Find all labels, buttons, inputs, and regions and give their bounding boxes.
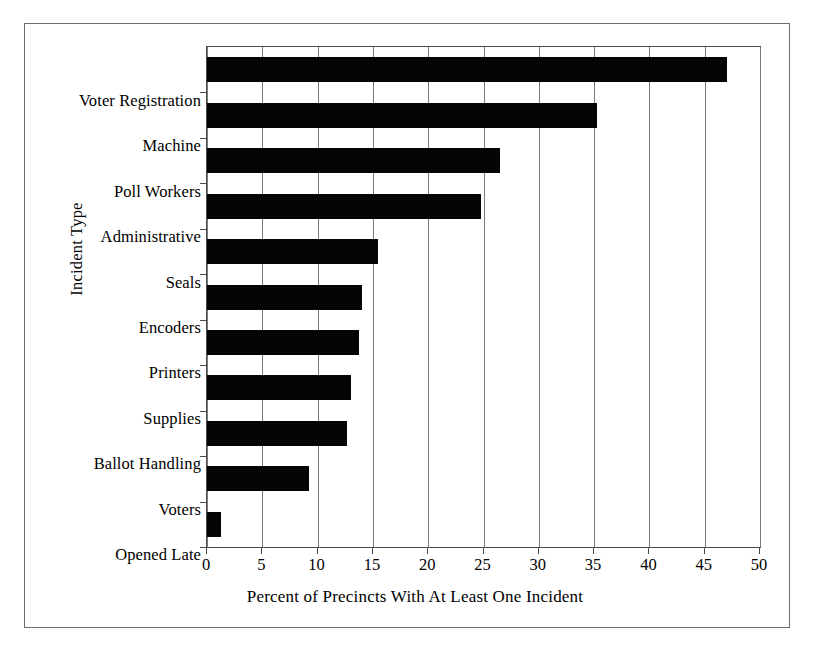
y-axis-category-label: Voters [55,502,201,519]
x-axis-tick-label: 15 [364,557,381,574]
y-axis-category-label: Administrative [55,229,201,246]
x-axis-tick [427,547,428,554]
bar [207,375,351,400]
x-axis-tick-labels: 05101520253035404550 [206,557,759,579]
x-axis-tick [538,547,539,554]
bar [207,285,362,310]
bar [207,330,359,355]
x-axis-tick [704,547,705,554]
gridline-x-50 [760,47,761,547]
y-axis-category-label: Poll Workers [55,184,201,201]
y-axis-category-label: Machine [55,138,201,155]
bar [207,466,309,491]
x-axis-tick [648,547,649,554]
y-axis-category-label: Ballot Handling [55,456,201,473]
bar [207,148,500,173]
x-axis-tick [372,547,373,554]
bar [207,239,378,264]
x-axis-tick-label: 45 [695,557,712,574]
x-axis-tick [483,547,484,554]
x-axis-tick-label: 30 [530,557,547,574]
bar [207,421,347,446]
y-axis-tick [200,456,207,457]
y-axis-tick [200,183,207,184]
bar [207,512,221,537]
y-axis-tick [200,92,207,93]
x-axis-tick [261,547,262,554]
x-axis-tick [593,547,594,554]
x-axis-tick-label: 25 [474,557,491,574]
y-axis-category-label: Voter Registration [55,93,201,110]
x-axis-tick-label: 35 [585,557,602,574]
x-axis-tick-label: 20 [419,557,436,574]
bar [207,103,597,128]
x-axis-tick [317,547,318,554]
y-axis-tick [200,320,207,321]
y-axis-category-label: Seals [55,275,201,292]
y-axis-tick [200,138,207,139]
y-axis-tick [200,229,207,230]
y-axis-tick [200,274,207,275]
y-axis-tick [200,365,207,366]
y-axis-tick [200,502,207,503]
x-axis-tick-label: 0 [202,557,210,574]
gridline-x-40 [649,47,650,547]
y-axis-category-label: Supplies [55,411,201,428]
y-axis-category-labels: Voter RegistrationMachinePoll WorkersAdm… [55,56,201,556]
x-axis-tick [206,547,207,554]
y-axis-category-label: Encoders [55,320,201,337]
x-axis-tick-label: 50 [751,557,768,574]
x-axis-ticks [206,547,759,555]
bar [207,194,481,219]
bar [207,57,727,82]
y-axis-category-label: Opened Late [55,547,201,564]
x-axis-tick-label: 10 [308,557,325,574]
x-axis-tick-label: 5 [257,557,265,574]
gridline-x-45 [705,47,706,547]
y-axis-category-label: Printers [55,365,201,382]
y-axis-tick [200,411,207,412]
plot-area [206,46,761,548]
figure-frame: Incident Type Voter RegistrationMachineP… [24,23,790,628]
x-axis-tick-label: 40 [640,557,657,574]
x-axis-title: Percent of Precincts With At Least One I… [85,587,745,607]
x-axis-tick [759,547,760,554]
